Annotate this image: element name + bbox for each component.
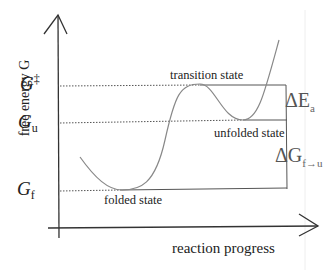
energy-curve	[80, 40, 279, 190]
g-u-dotted-line	[60, 120, 243, 123]
transition-state-label: transition state	[170, 68, 243, 83]
folded-state-label: folded state	[104, 193, 162, 208]
g-f-solid-line	[120, 188, 287, 190]
x-axis-arrow-icon	[299, 214, 318, 236]
unfolded-state-label: unfolded state	[214, 126, 284, 141]
activation-energy-label: ΔEa	[285, 89, 315, 112]
g-ts-label: G‡	[20, 72, 40, 95]
y-axis-label: free energy G	[17, 43, 33, 153]
x-axis	[48, 214, 318, 236]
g-f-dotted-line	[60, 190, 120, 191]
g-u-label: Gu	[18, 111, 38, 133]
y-axis	[44, 15, 67, 238]
folding-free-energy-label: ΔGf→u	[275, 144, 322, 167]
g-f-label: Gf	[17, 178, 35, 200]
x-axis-label: reaction progress	[172, 240, 275, 257]
g-ts-dotted-line	[60, 85, 200, 86]
energy-diagram: free energy G G‡ Gu Gf transition state …	[0, 0, 331, 270]
y-axis-arrow-icon	[44, 15, 67, 34]
